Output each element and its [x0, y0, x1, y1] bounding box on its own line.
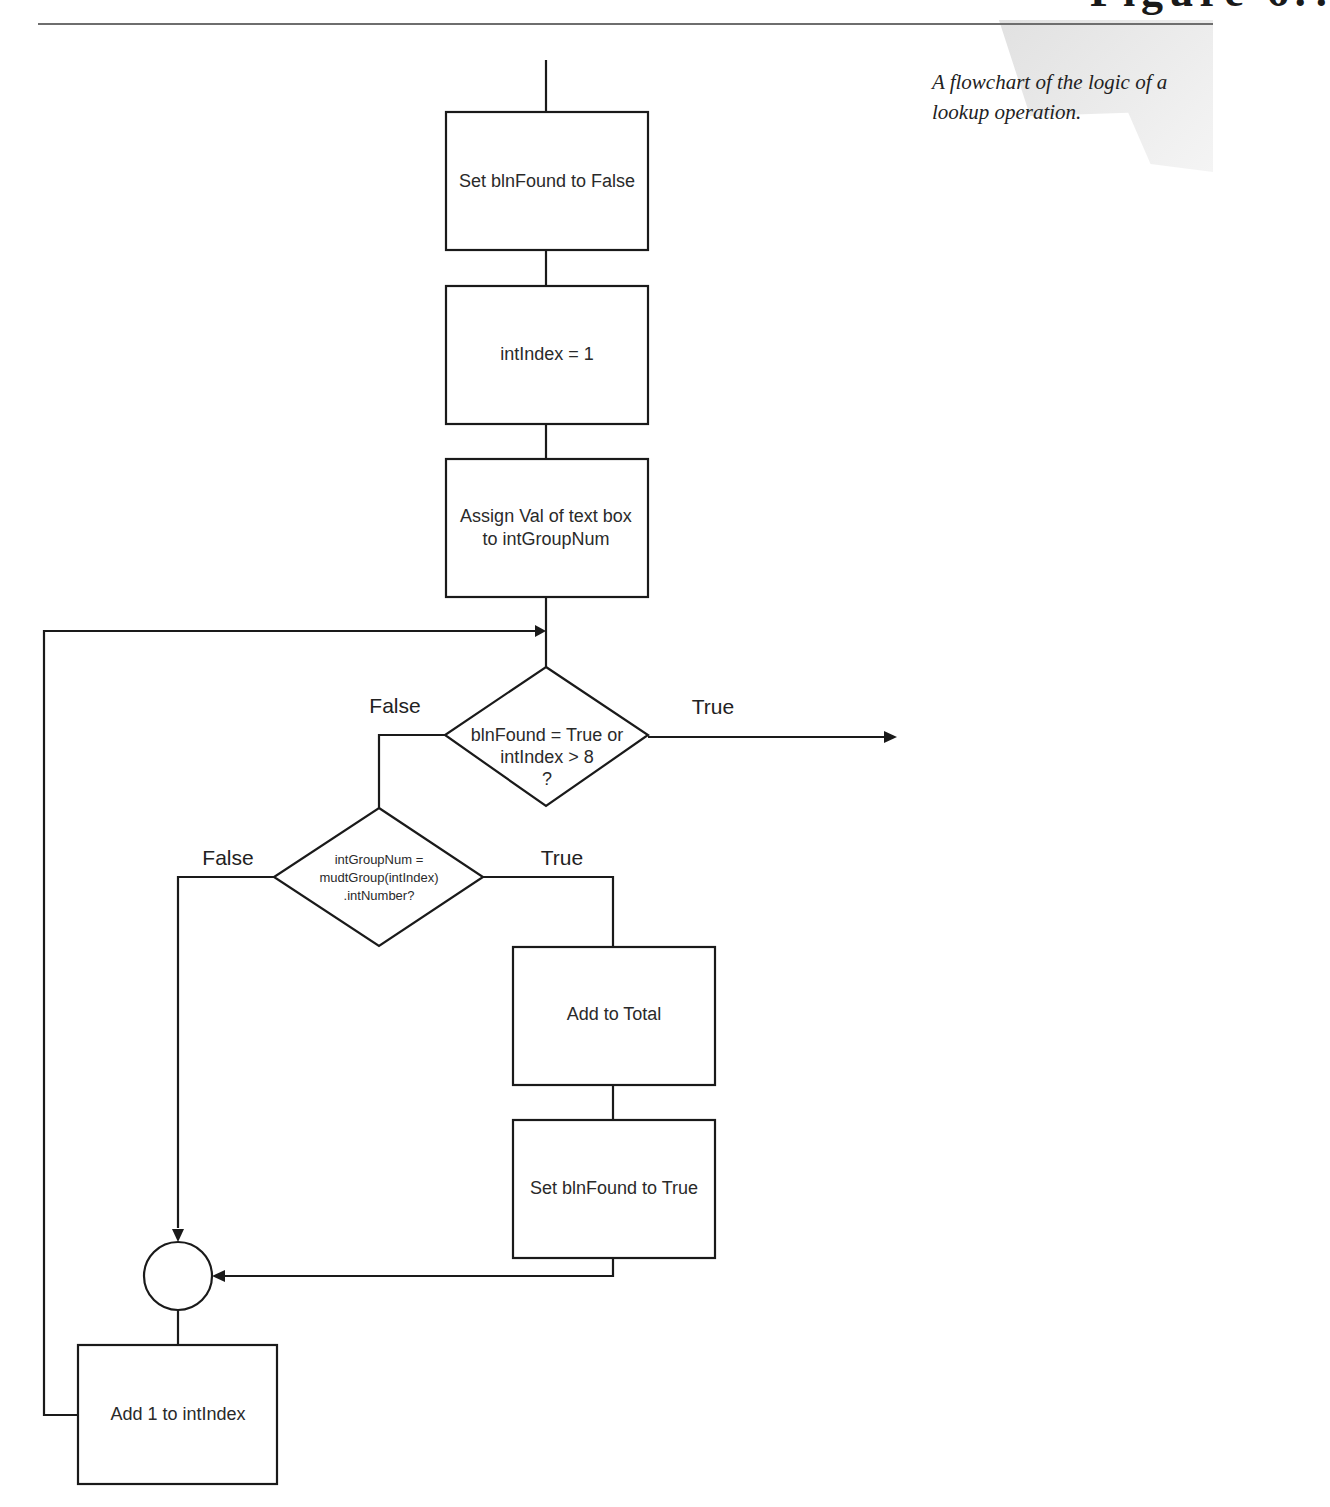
loop-back-connector — [44, 631, 536, 1415]
decision-label-line-3: .intNumber? — [344, 888, 415, 903]
junction-arrowhead-icon — [212, 1270, 225, 1282]
decision-label-line-2: intIndex > 8 — [500, 747, 594, 767]
node-set-blnfound-false: Set blnFound to False — [446, 112, 648, 250]
node-label: intIndex = 1 — [500, 344, 594, 364]
junction-connector-node — [144, 1242, 212, 1310]
edge-label-match-false: False — [202, 846, 253, 869]
decision-loop-check: blnFound = True or intIndex > 8 ? — [445, 667, 648, 806]
edge-label-match-true: True — [541, 846, 583, 869]
node-label: Add 1 to intIndex — [110, 1404, 245, 1424]
loop-back-arrowhead-icon — [535, 625, 546, 637]
decision-label-line-3: ? — [542, 769, 552, 789]
match-false-connector — [178, 877, 274, 1228]
node-label: Set blnFound to False — [459, 171, 635, 191]
match-true-connector — [483, 877, 613, 947]
edge-label-false: False — [369, 694, 420, 717]
node-set-blnfound-true: Set blnFound to True — [513, 1120, 715, 1258]
node-label: Set blnFound to True — [530, 1178, 698, 1198]
node-label: Add to Total — [567, 1004, 662, 1024]
settrue-to-junction-connector — [225, 1258, 613, 1276]
edge-label-true: True — [692, 695, 734, 718]
node-label-line-2: to intGroupNum — [482, 529, 609, 549]
node-increment-intindex: Add 1 to intIndex — [78, 1345, 277, 1484]
decision-label-line-1: blnFound = True or — [471, 725, 624, 745]
false-branch-connector — [379, 735, 445, 808]
node-add-to-total: Add to Total — [513, 947, 715, 1085]
node-label-line-1: Assign Val of text box — [460, 506, 632, 526]
node-assign-val: Assign Val of text box to intGroupNum — [446, 459, 648, 597]
decision-label-line-2: mudtGroup(intIndex) — [319, 870, 438, 885]
match-false-arrowhead-icon — [172, 1229, 184, 1242]
node-init-intindex: intIndex = 1 — [446, 286, 648, 424]
decision-label-line-1: intGroupNum = — [335, 852, 424, 867]
true-exit-arrowhead-icon — [884, 731, 897, 743]
decision-match-check: intGroupNum = mudtGroup(intIndex) .intNu… — [274, 808, 483, 946]
